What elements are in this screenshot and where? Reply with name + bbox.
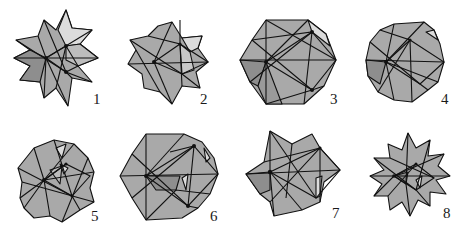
polyhedron-2-drawing bbox=[120, 0, 230, 115]
polyhedron-5: 5 bbox=[0, 118, 115, 236]
polyhedron-8: 8 bbox=[350, 118, 462, 236]
polyhedron-7: 7 bbox=[230, 118, 350, 236]
polyhedron-label-4: 4 bbox=[441, 92, 449, 107]
polyhedron-label-6: 6 bbox=[210, 209, 218, 224]
polyhedron-2: 2 bbox=[120, 0, 230, 115]
polyhedron-3: 3 bbox=[230, 0, 350, 115]
polyhedron-label-5: 5 bbox=[91, 209, 99, 224]
polyhedron-label-1: 1 bbox=[93, 92, 101, 107]
polyhedron-6: 6 bbox=[110, 118, 230, 236]
polyhedron-label-2: 2 bbox=[200, 92, 208, 107]
polyhedron-label-3: 3 bbox=[330, 92, 338, 107]
polyhedron-1: 1 bbox=[0, 0, 115, 115]
polyhedron-label-8: 8 bbox=[443, 206, 451, 221]
polyhedron-4: 4 bbox=[350, 0, 462, 115]
polyhedron-label-7: 7 bbox=[332, 206, 340, 221]
